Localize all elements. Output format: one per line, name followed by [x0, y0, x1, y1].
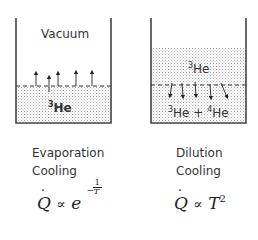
dilution-equation: · Q ∝ T2 — [174, 193, 226, 213]
dilution-cooling-caption: Dilution Cooling — [176, 144, 223, 180]
vacuum-label: Vacuum — [41, 27, 89, 42]
helium3-upper-label: 3He — [188, 58, 210, 77]
evaporation-cooling-caption: Evaporation Cooling — [32, 144, 104, 180]
helium3-label: 3He — [48, 97, 72, 116]
exponent-fraction: − 1 T — [87, 199, 105, 209]
evaporation-equation: · Q ∝ e − 1 T — [37, 193, 105, 213]
helium-mixture-label: 3He + 4He — [168, 102, 229, 121]
